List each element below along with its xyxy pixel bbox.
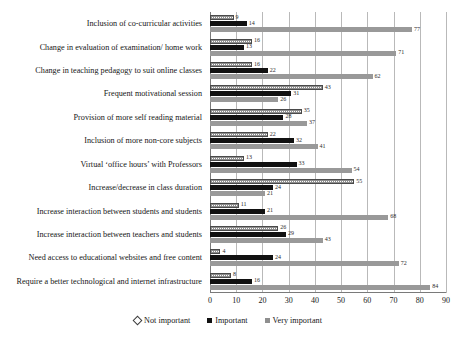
x-tick-label: 60 <box>363 296 371 305</box>
bar-group: 352837 <box>210 109 446 126</box>
category-label: Provision of more self reading material <box>74 113 202 122</box>
chart-legend: Not importantImportantVery important <box>0 316 456 325</box>
bar-important <box>210 162 297 167</box>
bar-value-label: 22 <box>270 131 276 137</box>
bar-important <box>210 21 247 26</box>
x-tick-label: 30 <box>285 296 293 305</box>
bar-value-label: 24 <box>275 184 281 190</box>
bar-value-label: 29 <box>288 230 294 236</box>
x-tick-label: 50 <box>337 296 345 305</box>
bar-value-label: 16 <box>254 37 260 43</box>
bar-not-important <box>210 249 220 254</box>
category-label: Virtual ‘office hours’ with Professors <box>80 160 202 169</box>
bar-value-label: 55 <box>356 178 362 184</box>
bar-value-label: 13 <box>246 154 252 160</box>
bar-value-label: 77 <box>414 26 420 32</box>
x-tick-label: 70 <box>390 296 398 305</box>
category-label: Require a better technological and inter… <box>16 277 202 286</box>
bar-value-label: 84 <box>432 283 438 289</box>
bar-group: 433126 <box>210 85 446 102</box>
bar-value-label: 8 <box>233 271 236 277</box>
bar-very-important <box>210 51 396 56</box>
bar-value-label: 21 <box>267 207 273 213</box>
legend-item[interactable]: Not important <box>134 316 190 325</box>
bar-value-label: 41 <box>320 143 326 149</box>
square-black-icon <box>207 318 212 323</box>
x-tick-label: 40 <box>311 296 319 305</box>
bar-not-important <box>210 85 323 90</box>
legend-item[interactable]: Very important <box>265 316 322 325</box>
x-tick-label: 20 <box>258 296 266 305</box>
bar-very-important <box>210 238 323 243</box>
bar-not-important <box>210 132 268 137</box>
bar-not-important <box>210 62 252 67</box>
bar-value-label: 16 <box>254 277 260 283</box>
bar-value-label: 71 <box>398 49 404 55</box>
bar-value-label: 14 <box>249 20 255 26</box>
bar-value-label: 54 <box>354 166 360 172</box>
bar-value-label: 24 <box>275 254 281 260</box>
bar-value-label: 21 <box>267 190 273 196</box>
category-axis-labels: Inclusion of co-curricular activitiesCha… <box>0 12 206 293</box>
bar-value-label: 68 <box>390 213 396 219</box>
plot-area: 9147716137116226243312635283722324113335… <box>210 12 446 293</box>
bar-important <box>210 209 265 214</box>
bar-important <box>210 68 268 73</box>
bar-value-label: 13 <box>246 43 252 49</box>
legend-label: Not important <box>144 316 190 325</box>
bar-important <box>210 279 252 284</box>
bar-value-label: 35 <box>304 107 310 113</box>
bar-value-label: 28 <box>285 113 291 119</box>
bar-value-label: 22 <box>270 67 276 73</box>
bar-value-label: 37 <box>309 119 315 125</box>
category-label: Change in evaluation of examination/ hom… <box>40 43 202 52</box>
bar-not-important <box>210 15 234 20</box>
bar-not-important <box>210 273 231 278</box>
category-label: Change in teaching pedagogy to suit onli… <box>35 66 202 75</box>
bar-value-label: 62 <box>375 73 381 79</box>
category-label: Increase interaction between teachers an… <box>37 230 202 239</box>
bar-group: 91477 <box>210 15 446 32</box>
bar-important <box>210 232 286 237</box>
bar-not-important <box>210 226 278 231</box>
gridline-90 <box>446 12 447 293</box>
category-label: Inclusion of more non-core subjects <box>84 136 202 145</box>
bar-value-label: 11 <box>241 201 247 207</box>
x-tick-label: 0 <box>208 296 212 305</box>
bar-value-label: 32 <box>296 137 302 143</box>
diamond-outline-icon <box>133 316 143 326</box>
bar-very-important <box>210 168 352 173</box>
x-tick-label: 90 <box>442 296 450 305</box>
bar-very-important <box>210 74 373 79</box>
bar-important <box>210 115 283 120</box>
bar-value-label: 72 <box>401 260 407 266</box>
x-tick-label: 10 <box>232 296 240 305</box>
x-axis-line <box>210 292 446 293</box>
category-label: Inclusion of co-curricular activities <box>87 19 202 28</box>
bar-very-important <box>210 144 318 149</box>
bar-group: 162262 <box>210 62 446 79</box>
legend-item[interactable]: Important <box>207 316 247 325</box>
bar-group: 81684 <box>210 273 446 290</box>
bar-value-label: 26 <box>280 96 286 102</box>
category-label: Frequent motivational session <box>104 89 202 98</box>
bar-very-important <box>210 27 412 32</box>
bar-very-important <box>210 97 278 102</box>
bar-value-label: 4 <box>222 248 225 254</box>
bar-important <box>210 255 273 260</box>
bar-very-important <box>210 285 430 290</box>
bar-value-label: 9 <box>236 14 239 20</box>
bar-value-label: 33 <box>299 160 305 166</box>
bar-value-label: 43 <box>325 84 331 90</box>
bar-chart: Inclusion of co-curricular activitiesCha… <box>0 0 456 341</box>
bar-group: 112168 <box>210 203 446 220</box>
bar-important <box>210 138 294 143</box>
bar-group: 133354 <box>210 156 446 173</box>
bar-very-important <box>210 121 307 126</box>
legend-label: Important <box>215 316 247 325</box>
bar-value-label: 16 <box>254 61 260 67</box>
bar-important <box>210 45 244 50</box>
bar-very-important <box>210 191 265 196</box>
category-label: Increase/decrease in class duration <box>89 183 202 192</box>
x-tick-label: 80 <box>416 296 424 305</box>
